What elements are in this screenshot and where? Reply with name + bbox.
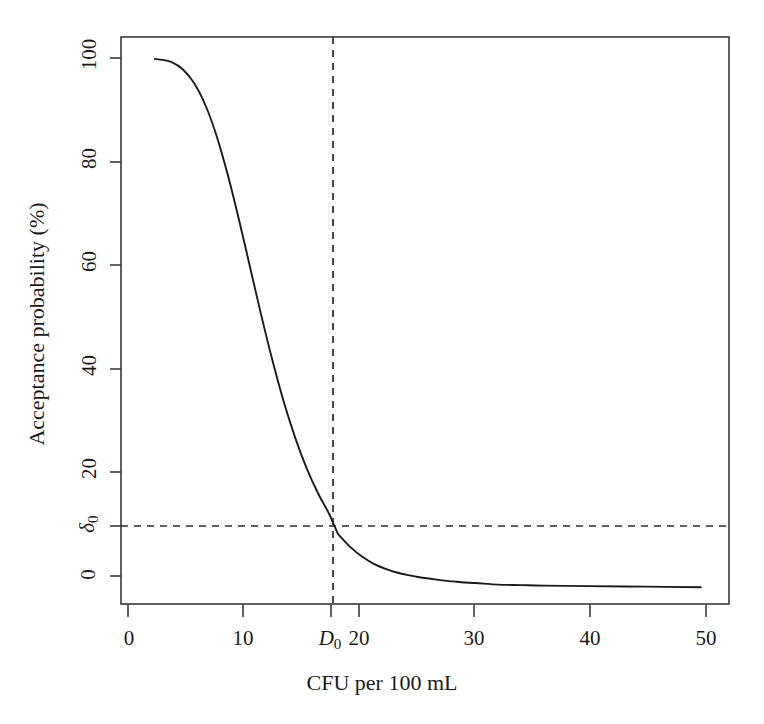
y-tick-label-100: 100 — [79, 32, 100, 78]
x-tick-label-40: 40 — [576, 628, 604, 649]
y-axis-ticks — [110, 58, 121, 576]
x-tick-label-20: 20 — [345, 628, 373, 649]
y-tick-label-20: 20 — [79, 452, 100, 486]
x-tick-label-30: 30 — [460, 628, 488, 649]
x-axis-title: CFU per 100 mL — [0, 672, 764, 694]
y-tick-label-60: 60 — [79, 245, 100, 279]
x-tick-label-10: 10 — [229, 628, 257, 649]
chart-plot-area — [0, 0, 764, 724]
y-axis-title: Acceptance probability (%) — [26, 174, 48, 474]
acceptance-probability-curve — [155, 59, 701, 587]
x-tick-label-50: 50 — [692, 628, 720, 649]
x-tick-label-D0: D0 — [310, 628, 350, 652]
y-tick-label-80: 80 — [79, 142, 100, 176]
y-tick-label-40: 40 — [79, 349, 100, 383]
x-axis-ticks — [128, 604, 706, 617]
y-tick-label-delta0: δ0 — [77, 507, 101, 541]
x-tick-label-0: 0 — [121, 628, 137, 649]
y-tick-label-0: 0 — [78, 563, 99, 587]
chart-figure: 100 80 60 40 20 δ0 0 0 10 D0 20 30 40 50… — [0, 0, 764, 724]
